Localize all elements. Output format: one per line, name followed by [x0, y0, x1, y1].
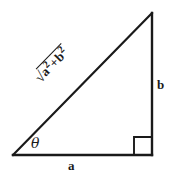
height-label-b: b	[157, 78, 164, 91]
right-angle-marker-icon	[134, 137, 152, 155]
base-label-a: a	[68, 159, 75, 172]
angle-label-theta: θ	[31, 136, 39, 150]
triangle-drawing	[0, 0, 171, 180]
right-triangle-figure: a b θ √a2+b2	[0, 0, 171, 180]
triangle-hypotenuse-side	[13, 13, 152, 155]
